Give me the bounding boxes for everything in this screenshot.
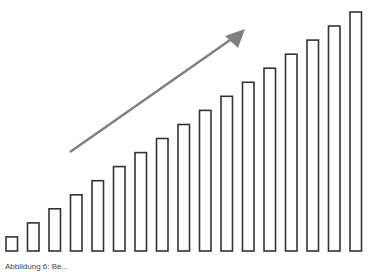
bar [92, 181, 104, 251]
bar [243, 82, 255, 251]
bar [286, 54, 298, 251]
trend-arrow-icon [70, 29, 245, 152]
bar [329, 26, 341, 251]
bar [157, 139, 169, 252]
bar [49, 209, 61, 251]
bar [307, 40, 319, 251]
bar [221, 96, 233, 251]
bar [178, 125, 190, 252]
bars [6, 12, 362, 251]
bar [200, 110, 212, 251]
figure-caption: Abbildung 6: Be... [5, 262, 68, 272]
bar [71, 195, 83, 251]
bar [6, 237, 18, 251]
bar [114, 167, 126, 251]
bar [264, 68, 276, 251]
bar [135, 153, 147, 251]
bar [28, 223, 40, 251]
bar [350, 12, 362, 251]
